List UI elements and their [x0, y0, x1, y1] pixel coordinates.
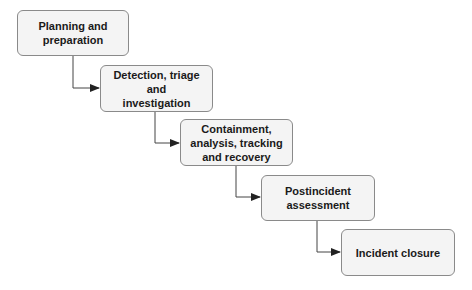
step-label-line: Detection, triage and — [105, 68, 208, 96]
step-label-line: investigation — [105, 96, 208, 110]
process-diagram: Planning and preparation Detection, tria… — [0, 0, 472, 290]
step-postincident-assessment: Postincident assessment — [261, 175, 375, 221]
step-label-line: Postincident — [285, 184, 351, 198]
step-label-line: preparation — [38, 33, 107, 47]
step-containment-analysis-recovery: Containment, analysis, tracking and reco… — [180, 119, 293, 166]
step-label-line: Planning and — [38, 19, 107, 33]
connector-3-4 — [236, 165, 260, 197]
connector-1-2 — [73, 55, 99, 88]
step-label-line: Containment, — [190, 122, 282, 136]
connector-2-3 — [155, 111, 179, 143]
step-planning-and-preparation: Planning and preparation — [17, 10, 129, 56]
step-label-line: assessment — [285, 198, 351, 212]
step-label-line: analysis, tracking — [190, 136, 282, 150]
step-label-line: and recovery — [190, 150, 282, 164]
step-label-line: Incident closure — [356, 246, 440, 260]
connector-4-5 — [317, 220, 340, 252]
step-detection-triage-investigation: Detection, triage and investigation — [100, 65, 213, 112]
step-incident-closure: Incident closure — [341, 229, 455, 276]
